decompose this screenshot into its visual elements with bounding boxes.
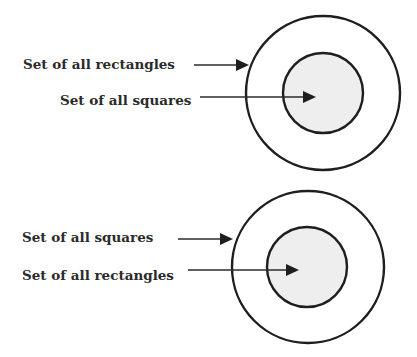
diagram-rectangles-contain-squares: Set of all rectangles Set of all squares [23, 16, 400, 170]
diagram-squares-contain-rectangles: Set of all squares Set of all rectangles [22, 191, 384, 343]
arrow-head-icon [236, 59, 249, 71]
arrow-head-icon [220, 233, 233, 245]
inner-circle [283, 53, 363, 133]
inner-set-label: Set of all rectangles [22, 267, 174, 283]
set-diagrams: Set of all rectangles Set of all squares… [0, 0, 417, 357]
outer-set-label: Set of all rectangles [23, 56, 175, 72]
inner-circle [267, 227, 347, 307]
outer-set-label: Set of all squares [22, 229, 154, 245]
inner-set-label: Set of all squares [60, 92, 192, 108]
